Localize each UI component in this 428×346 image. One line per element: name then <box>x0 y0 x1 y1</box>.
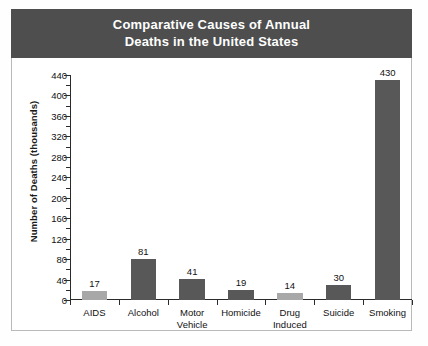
bar <box>82 291 107 300</box>
x-axis-category-label: MotorVehicle <box>177 307 208 331</box>
x-axis-tick <box>119 300 120 305</box>
x-axis-tick <box>265 300 266 305</box>
y-axis-tick-labels: 44040036032028024020016012080400 <box>35 58 67 331</box>
bar-value-label: 81 <box>138 246 149 257</box>
chart-title-banner: Comparative Causes of Annual Deaths in t… <box>11 9 412 58</box>
chart-title-line-1: Comparative Causes of Annual <box>113 17 310 34</box>
bar-series: 178141191430430 <box>70 75 412 300</box>
x-axis-category-labels: AIDSAlcoholMotorVehicleHomicideDrugInduc… <box>70 307 412 346</box>
x-axis-category-label: Alcohol <box>128 307 159 319</box>
x-axis-tick <box>412 300 413 305</box>
category-label-line: Alcohol <box>128 307 159 319</box>
x-axis-tick <box>70 300 71 305</box>
x-axis-category-label: Homicide <box>221 307 261 319</box>
bar-value-label: 41 <box>187 266 198 277</box>
bar <box>131 259 156 300</box>
bar <box>179 279 204 300</box>
x-axis-tick <box>363 300 364 305</box>
bar-value-label: 14 <box>285 280 296 291</box>
category-label-line: Suicide <box>323 307 354 319</box>
category-label-line: Vehicle <box>177 319 208 331</box>
category-label-line: Drug <box>273 307 307 319</box>
category-label-line: Homicide <box>221 307 261 319</box>
category-label-line: Induced <box>273 319 307 331</box>
chart-title-line-2: Deaths in the United States <box>125 34 299 51</box>
x-axis-tick <box>168 300 169 305</box>
chart-figure: Comparative Causes of Annual Deaths in t… <box>0 0 428 346</box>
category-label-line: Motor <box>177 307 208 319</box>
x-axis-category-label: Suicide <box>323 307 354 319</box>
plot-area: Number of Deaths (thousands) 44040036032… <box>11 58 412 331</box>
bar <box>228 290 253 300</box>
x-axis-category-label: DrugInduced <box>273 307 307 331</box>
category-label-line: Smoking <box>369 307 406 319</box>
x-axis-category-label: Smoking <box>369 307 406 319</box>
bar-value-label: 430 <box>380 67 396 78</box>
bar <box>375 80 400 300</box>
bar-value-label: 30 <box>333 272 344 283</box>
bar <box>277 293 302 300</box>
category-label-line: AIDS <box>83 307 105 319</box>
x-axis-tick <box>314 300 315 305</box>
bar-value-label: 17 <box>89 278 100 289</box>
bar-value-label: 19 <box>236 277 247 288</box>
bar <box>326 285 351 300</box>
x-axis-category-label: AIDS <box>83 307 105 319</box>
x-axis-tick <box>217 300 218 305</box>
